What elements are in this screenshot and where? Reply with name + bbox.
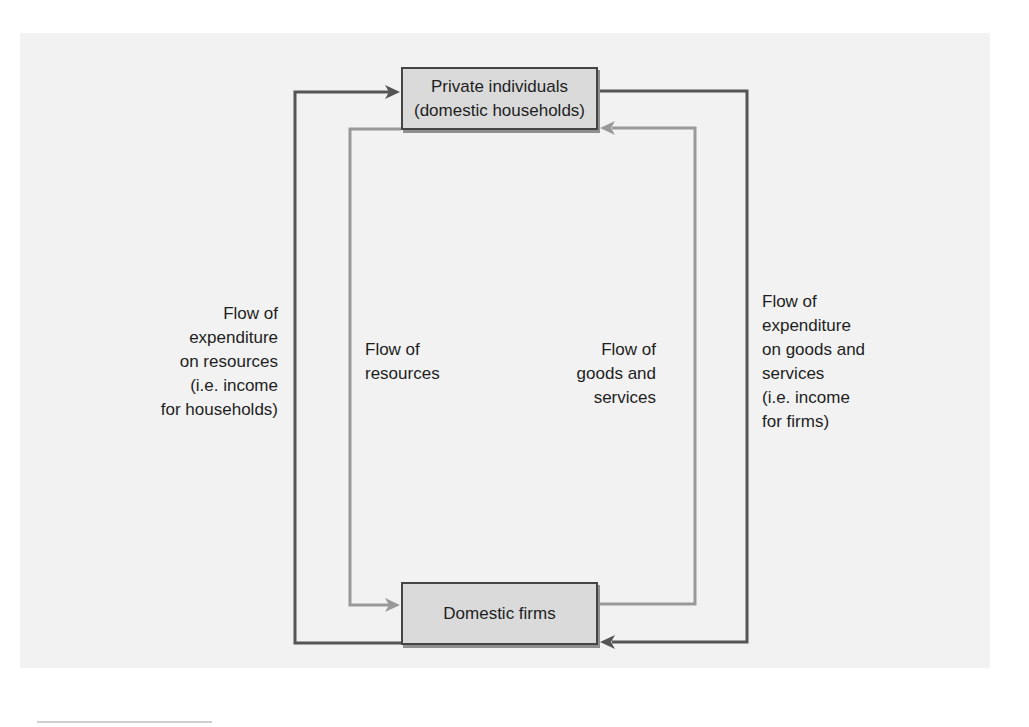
label-line: Flow of [762, 290, 865, 314]
label-resources: Flow of resources [365, 338, 440, 386]
firms-node: Domestic firms [401, 582, 598, 645]
label-line: (i.e. income [762, 386, 865, 410]
label-line: (i.e. income [150, 374, 278, 398]
label-line: Flow of [150, 302, 278, 326]
label-line: services [560, 386, 656, 410]
label-line: services [762, 362, 865, 386]
label-expenditure-on-goods: Flow of expenditure on goods and service… [762, 290, 865, 434]
label-line: goods and [560, 362, 656, 386]
label-line: on resources [150, 350, 278, 374]
households-node: Private individuals (domestic households… [401, 67, 598, 130]
households-title: Private individuals [414, 75, 585, 99]
label-line: resources [365, 362, 440, 386]
label-line: expenditure [762, 314, 865, 338]
households-subtitle: (domestic households) [414, 99, 585, 123]
label-line: Flow of [560, 338, 656, 362]
firms-title: Domestic firms [443, 602, 555, 626]
label-line: expenditure [150, 326, 278, 350]
label-line: for households) [150, 398, 278, 422]
label-goods-and-services: Flow of goods and services [560, 338, 656, 410]
label-line: on goods and [762, 338, 865, 362]
bottom-divider [37, 721, 212, 723]
label-line: for firms) [762, 410, 865, 434]
label-line: Flow of [365, 338, 440, 362]
label-expenditure-on-resources: Flow of expenditure on resources (i.e. i… [150, 302, 278, 422]
